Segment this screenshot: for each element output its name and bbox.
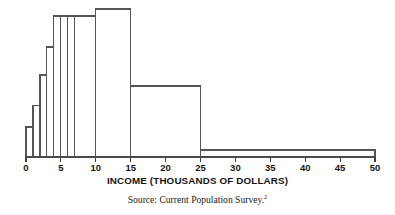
histogram-figure: 05101520253035404550 INCOME (THOUSANDS O… bbox=[0, 0, 395, 215]
x-axis-tick-label: 50 bbox=[370, 162, 381, 173]
x-axis-tick-label: 5 bbox=[58, 162, 64, 173]
x-axis-tick-label: 25 bbox=[195, 162, 206, 173]
histogram-bar bbox=[201, 150, 376, 157]
x-axis-tick-label: 0 bbox=[23, 162, 28, 173]
source-note: Source: Current Population Survey.2 bbox=[0, 194, 395, 205]
axis-tick-labels-group: 05101520253035404550 bbox=[23, 162, 380, 173]
histogram-bar bbox=[96, 9, 131, 157]
histogram-bar bbox=[75, 16, 96, 157]
x-axis-tick-label: 45 bbox=[335, 162, 346, 173]
x-axis-title: INCOME (THOUSANDS OF DOLLARS) bbox=[0, 175, 395, 186]
source-footnote-marker: 2 bbox=[264, 193, 267, 200]
x-axis-tick-label: 30 bbox=[230, 162, 241, 173]
histogram-bar bbox=[131, 86, 201, 157]
axis-ticks-group bbox=[26, 157, 375, 162]
histogram-bar bbox=[26, 127, 33, 157]
histogram-bar bbox=[61, 16, 68, 157]
x-axis-tick-label: 35 bbox=[265, 162, 276, 173]
histogram-bar bbox=[47, 47, 54, 157]
bars-group bbox=[26, 9, 375, 157]
histogram-bar bbox=[40, 75, 47, 157]
x-axis-tick-label: 10 bbox=[91, 162, 102, 173]
source-note-text: Source: Current Population Survey. bbox=[128, 194, 264, 205]
histogram-bar bbox=[54, 16, 61, 157]
x-axis-tick-label: 15 bbox=[125, 162, 136, 173]
x-axis-tick-label: 20 bbox=[160, 162, 171, 173]
x-axis-tick-label: 40 bbox=[300, 162, 311, 173]
histogram-bar bbox=[33, 105, 40, 157]
histogram-bar bbox=[68, 16, 75, 157]
